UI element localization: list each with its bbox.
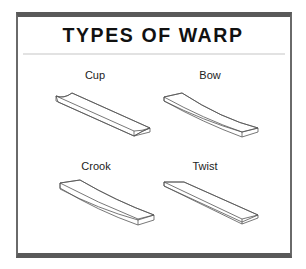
label-bow: Bow xyxy=(170,69,250,81)
label-cup: Cup xyxy=(55,69,135,81)
cup-warp-board-icon xyxy=(54,90,152,140)
title-divider xyxy=(23,53,285,55)
diagram-title: TYPES OF WARP xyxy=(0,24,306,47)
bow-warp-board-icon xyxy=(162,91,260,141)
twist-warp-board-icon xyxy=(162,178,260,228)
label-twist: Twist xyxy=(165,160,245,172)
crook-warp-board-icon xyxy=(58,179,156,229)
label-crook: Crook xyxy=(56,160,136,172)
